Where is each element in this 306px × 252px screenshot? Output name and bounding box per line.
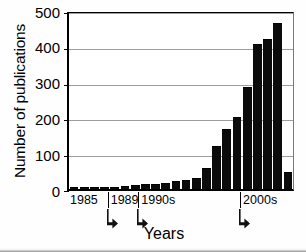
x-axis-band: 198519891990s2000s [67,193,294,209]
bar [121,186,130,189]
bar [243,87,252,189]
x-axis-segment-label: 1985 [70,193,98,208]
x-axis-segment-label: 1989 [111,193,139,208]
y-tick-mark [64,191,69,192]
bar [233,117,242,189]
bar [70,187,79,189]
bar [202,168,211,189]
y-tick-label: 400 [12,40,60,55]
y-tick-label: 0 [12,184,60,199]
x-axis-segment-separator [240,192,241,208]
y-tick-label: 300 [12,76,60,91]
bar [192,178,201,189]
bar [222,129,231,189]
bar [182,180,191,189]
bar [80,187,89,189]
bar [172,181,181,189]
bar [141,184,150,189]
x-axis-segment-label: 1990s [141,193,175,208]
x-axis-title-text: Years [144,225,184,243]
x-axis-segment-separator [108,192,109,208]
x-axis-segment-label: 2000s [243,193,277,208]
bar [90,187,99,189]
y-tick-label: 500 [12,5,60,20]
bar [284,172,293,189]
bar [100,187,109,189]
chart-figure: Number of publications 500 400 300 200 1… [0,0,306,252]
plot-area [67,12,294,191]
bar [110,187,119,189]
bar [131,185,140,189]
bar [151,184,160,189]
bar-series [69,13,293,189]
bar [212,146,221,189]
x-axis-title: Years [0,225,306,243]
bar [161,183,170,189]
y-tick-label: 200 [12,112,60,127]
bar [273,23,282,189]
bar [253,44,262,189]
y-tick-label: 100 [12,148,60,163]
x-axis-segment-separator [138,192,139,208]
bar [263,39,272,189]
scan-line [0,248,306,252]
